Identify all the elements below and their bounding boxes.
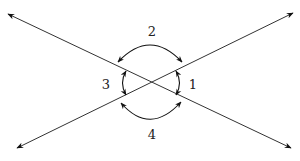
- angle-4-arc: [121, 102, 181, 119]
- angle-label-2: 2: [148, 25, 156, 38]
- angle-label-4: 4: [148, 128, 156, 141]
- angle-label-1: 1: [189, 78, 197, 91]
- angle-3-arc: [123, 71, 127, 95]
- angle-2-arc: [118, 45, 182, 62]
- angle-1-arc: [176, 71, 180, 95]
- angle-label-3: 3: [102, 78, 110, 91]
